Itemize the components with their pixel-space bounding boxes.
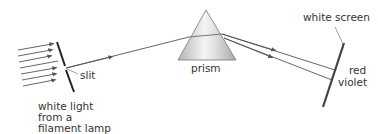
white-screen bbox=[323, 43, 344, 107]
violet-label: violet bbox=[338, 76, 367, 88]
slit-label: slit bbox=[80, 69, 95, 81]
red-label: red bbox=[349, 64, 366, 76]
dispersed-beams bbox=[222, 34, 335, 80]
source-label-line3: filament lamp bbox=[38, 122, 111, 134]
screen-leader-line bbox=[335, 27, 343, 44]
screen-label: white screen bbox=[303, 11, 370, 23]
prism-label: prism bbox=[191, 62, 221, 74]
incoming-light-rays bbox=[18, 44, 58, 86]
slit-leader-line bbox=[67, 69, 78, 74]
beam-arrow bbox=[66, 57, 111, 68]
prism-dispersion-diagram: slit white light from a filament lamp pr… bbox=[0, 0, 378, 134]
